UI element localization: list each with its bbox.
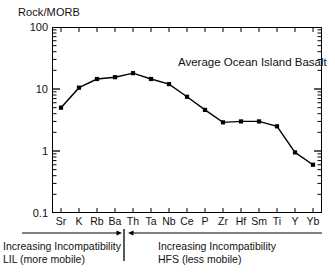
x-tick-label-p: P — [201, 215, 208, 227]
data-point-marker — [59, 106, 63, 110]
data-point-marker — [149, 77, 153, 81]
x-tick-label-sm: Sm — [251, 215, 267, 227]
data-point-marker — [257, 119, 261, 123]
incompatibility-annotations: Increasing Incompatibility LIL (more mob… — [0, 229, 335, 274]
data-point-marker — [311, 163, 315, 167]
lil-group-note: Increasing Incompatibility LIL (more mob… — [3, 240, 121, 265]
plot-canvas — [52, 27, 322, 213]
x-tick-label-ta: Ta — [145, 215, 156, 227]
data-point-marker — [293, 150, 297, 154]
x-tick-label-k: K — [75, 215, 82, 227]
x-tick-label-zr: Zr — [218, 215, 228, 227]
data-point-marker — [275, 124, 279, 128]
chart-annotation-label: Average Ocean Island Basalt — [178, 56, 327, 69]
x-tick-label-y: Y — [291, 215, 298, 227]
spider-diagram-figure: Rock/MORB 1001010.1 Average Ocean Island… — [0, 0, 335, 274]
y-tick-label: 100 — [30, 22, 48, 33]
x-tick-label-hf: Hf — [236, 215, 247, 227]
lil-note-line2: LIL (more mobile) — [3, 253, 121, 266]
y-tick-label: 0.1 — [33, 208, 48, 219]
x-tick-label-ce: Ce — [180, 215, 193, 227]
data-point-marker — [113, 75, 117, 79]
data-point-marker — [167, 82, 171, 86]
x-tick-label-sr: Sr — [56, 215, 67, 227]
x-tick-label-yb: Yb — [307, 215, 320, 227]
x-tick-label-nb: Nb — [162, 215, 175, 227]
hfs-note-line2: HFS (less mobile) — [158, 253, 276, 266]
data-point-marker — [185, 95, 189, 99]
hfs-note-line1: Increasing Incompatibility — [158, 240, 276, 253]
x-tick-label-ti: Ti — [273, 215, 281, 227]
x-tick-label-th: Th — [127, 215, 139, 227]
data-point-marker — [77, 86, 81, 90]
y-tick-label: 10 — [36, 84, 48, 95]
x-axis-tick-labels: SrKRbBaThTaNbCePZrHfSmTiYYb — [52, 215, 322, 229]
data-point-marker — [95, 77, 99, 81]
x-tick-label-rb: Rb — [90, 215, 103, 227]
data-point-marker — [131, 71, 135, 75]
lil-note-line1: Increasing Incompatibility — [3, 240, 121, 253]
data-point-marker — [239, 119, 243, 123]
data-series-line — [61, 73, 313, 165]
hfs-group-note: Increasing Incompatibility HFS (less mob… — [158, 240, 276, 265]
data-point-marker — [203, 108, 207, 112]
y-tick-label: 1 — [42, 146, 48, 157]
x-tick-label-ba: Ba — [109, 215, 122, 227]
data-point-marker — [221, 120, 225, 124]
